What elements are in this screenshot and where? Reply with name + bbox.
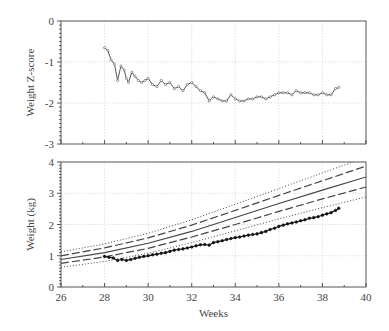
data-point xyxy=(203,243,206,246)
y-tick-label: 1 xyxy=(49,250,55,262)
data-point xyxy=(217,240,220,243)
data-point xyxy=(243,100,245,102)
data-point xyxy=(286,92,288,94)
data-point xyxy=(160,252,163,255)
y-tick-label: 3 xyxy=(49,187,55,199)
x-tick-label: 30 xyxy=(143,291,155,303)
series-group xyxy=(61,157,366,267)
data-point xyxy=(131,71,133,73)
data-point xyxy=(330,211,333,214)
data-point xyxy=(251,233,254,236)
data-point xyxy=(186,83,188,85)
y-tick-label: -2 xyxy=(45,97,54,109)
data-point xyxy=(212,241,215,244)
data-point xyxy=(212,96,214,98)
data-point xyxy=(256,96,258,98)
data-point xyxy=(260,96,262,98)
data-point xyxy=(147,254,150,257)
data-point xyxy=(247,234,250,237)
data-point xyxy=(147,77,149,79)
data-point xyxy=(208,100,210,102)
data-point xyxy=(221,100,223,102)
data-point xyxy=(173,88,175,90)
data-point xyxy=(238,236,241,239)
data-point xyxy=(225,100,227,102)
data-point xyxy=(178,86,180,88)
data-point xyxy=(308,92,310,94)
data-point xyxy=(269,228,272,231)
data-point xyxy=(199,90,201,92)
series-group xyxy=(103,47,339,102)
data-point xyxy=(295,221,298,224)
data-point xyxy=(269,96,271,98)
plot-frame xyxy=(61,21,366,144)
data-point xyxy=(243,235,246,238)
y-tick-label: -1 xyxy=(45,56,54,68)
data-point xyxy=(291,222,294,225)
data-point xyxy=(134,257,137,260)
data-point xyxy=(217,98,219,100)
data-point xyxy=(173,249,176,252)
data-point xyxy=(256,233,259,236)
data-point xyxy=(338,86,340,88)
data-point xyxy=(164,251,167,254)
data-point xyxy=(282,92,284,94)
x-tick-label: 38 xyxy=(317,291,329,303)
top-panel: 0-1-2-3Weight Z-score xyxy=(24,15,366,150)
x-tick-label: 40 xyxy=(361,291,373,303)
data-point xyxy=(195,86,197,88)
data-point xyxy=(199,244,202,247)
data-point xyxy=(164,83,166,85)
y-tick-label: 4 xyxy=(49,156,55,168)
data-point xyxy=(186,247,189,250)
data-point xyxy=(103,47,105,49)
y-tick-label: 0 xyxy=(49,281,55,293)
data-point xyxy=(273,94,275,96)
chart-root: 0-1-2-3Weight Z-score 01234Weight (kg)26… xyxy=(0,0,389,331)
data-point xyxy=(313,94,315,96)
data-point xyxy=(282,224,285,227)
data-point xyxy=(225,238,228,241)
data-point xyxy=(125,77,127,79)
data-point xyxy=(247,98,249,100)
y-tick-label: 0 xyxy=(49,15,55,27)
y-axis-title: Weight Z-score xyxy=(24,48,36,116)
data-point xyxy=(120,65,122,67)
data-point xyxy=(182,90,184,92)
x-tick-label: 32 xyxy=(186,291,197,303)
data-point xyxy=(317,94,319,96)
data-point xyxy=(138,256,141,259)
data-point xyxy=(121,258,124,261)
data-point xyxy=(110,59,112,61)
data-point xyxy=(330,94,332,96)
data-point xyxy=(182,248,185,251)
series-line--2-sd xyxy=(61,157,366,252)
x-tick-label: 34 xyxy=(230,291,242,303)
data-point xyxy=(129,258,132,261)
data-point xyxy=(208,244,211,247)
x-axis-title: Weeks xyxy=(199,307,228,319)
data-point xyxy=(230,237,233,240)
data-point xyxy=(113,63,115,65)
data-point xyxy=(195,244,198,247)
bottom-panel: 01234Weight (kg)2628303234363840Weeks xyxy=(24,156,372,319)
data-point xyxy=(117,79,119,81)
data-point xyxy=(123,69,125,71)
data-point xyxy=(151,254,154,257)
x-tick-label: 28 xyxy=(99,291,111,303)
data-point xyxy=(160,79,162,81)
data-point xyxy=(169,250,172,253)
data-point xyxy=(169,81,171,83)
series-line-infant-weight xyxy=(105,208,339,260)
data-point xyxy=(312,216,315,219)
data-point xyxy=(300,92,302,94)
data-point xyxy=(141,81,143,83)
y-tick-label: -3 xyxy=(45,138,55,150)
y-tick-label: 2 xyxy=(49,219,55,231)
data-point xyxy=(134,75,136,77)
data-point xyxy=(252,98,254,100)
data-point xyxy=(317,215,320,218)
data-point xyxy=(103,255,106,258)
data-point xyxy=(273,227,276,230)
data-point xyxy=(286,223,289,226)
